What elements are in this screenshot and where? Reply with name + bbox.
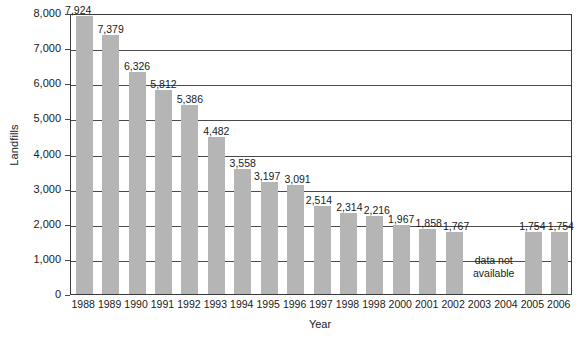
y-axis-tick-label: 7,000 <box>0 42 61 54</box>
bar-value-label: 4,482 <box>193 125 239 137</box>
bar <box>314 206 331 294</box>
data-not-available-line-2: available <box>449 267 539 280</box>
bar-value-label: 3,091 <box>275 173 321 185</box>
bar <box>129 72 146 294</box>
bar-value-label: 1,767 <box>433 220 479 232</box>
y-axis-tick-label: 8,000 <box>0 7 61 19</box>
bar <box>76 16 93 294</box>
x-axis-title: Year <box>0 318 588 330</box>
bar-value-label: 7,379 <box>88 23 134 35</box>
bar-value-label: 6,326 <box>114 60 160 72</box>
bar <box>366 216 383 294</box>
bar <box>393 225 410 294</box>
bar-value-label: 5,386 <box>167 93 213 105</box>
y-axis-tick-mark <box>65 295 70 296</box>
bar <box>155 90 172 294</box>
bar-value-label: 3,558 <box>220 157 266 169</box>
y-axis-tick-label: 4,000 <box>0 148 61 160</box>
gridline <box>71 50 571 51</box>
bar <box>234 169 251 294</box>
bar <box>340 213 357 294</box>
gridline <box>71 120 571 121</box>
gridline <box>71 191 571 192</box>
data-not-available-note: data notavailable <box>449 254 539 280</box>
plot-area: 7,9247,3796,3265,8125,3864,4823,5583,197… <box>70 14 572 295</box>
gridline <box>71 156 571 157</box>
bar <box>102 35 119 294</box>
bar <box>261 182 278 294</box>
y-axis-tick-label: 6,000 <box>0 77 61 89</box>
data-not-available-line-1: data not <box>449 254 539 267</box>
x-axis-tick-label: 2006 <box>542 298 576 310</box>
bar-value-label: 7,924 <box>55 4 101 16</box>
y-axis-tick-label: 5,000 <box>0 112 61 124</box>
bar <box>419 229 436 294</box>
y-axis-tick-label: 0 <box>0 288 61 300</box>
bar-chart-figure: Landfills Year 01,0002,0003,0004,0005,00… <box>0 0 588 339</box>
y-axis-tick-label: 3,000 <box>0 183 61 195</box>
y-axis-tick-label: 2,000 <box>0 218 61 230</box>
bar-value-label: 1,754 <box>538 220 584 232</box>
bar <box>551 232 568 294</box>
y-axis-tick-label: 1,000 <box>0 253 61 265</box>
bar-value-label: 5,812 <box>140 78 186 90</box>
